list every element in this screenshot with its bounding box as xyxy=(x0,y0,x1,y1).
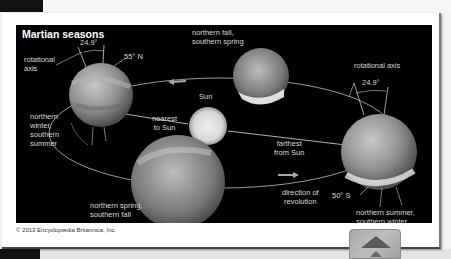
triangle-up-small-icon xyxy=(370,251,382,257)
copyright-text: © 2013 Encyclopædia Britannica, Inc. xyxy=(16,227,116,233)
label-northern-winter: northern winter, southern summer xyxy=(30,112,59,148)
figure-card: Martian seasons rotational axis 24.9° 55… xyxy=(2,13,441,249)
label-lat-south: 50° S xyxy=(332,191,350,200)
mars-left xyxy=(69,63,133,127)
label-sun: Sun xyxy=(199,92,212,101)
label-northern-spring: northern spring, southern fall xyxy=(90,201,143,219)
label-nearest: nearest to Sun xyxy=(152,114,177,132)
background-strip xyxy=(43,0,451,12)
direction-arrow-bottom xyxy=(278,172,299,178)
label-northern-fall: northern fall, southern spring xyxy=(192,28,244,46)
label-tilt-left: 24.9° xyxy=(80,38,98,47)
label-farthest: farthest from Sun xyxy=(274,139,304,157)
background-dark-corner-bottom xyxy=(0,249,40,259)
scroll-to-top-button[interactable] xyxy=(349,229,401,259)
label-northern-summer: northern summer, southern winter xyxy=(356,208,415,223)
label-lat-north: 55° N xyxy=(124,52,143,61)
diagram-panel: Martian seasons rotational axis 24.9° 55… xyxy=(16,25,432,223)
label-direction: direction of revolution xyxy=(282,188,319,206)
label-rotational-axis-left: rotational axis xyxy=(24,55,55,73)
triangle-up-icon xyxy=(361,236,391,248)
label-rotational-axis-right: rotational axis xyxy=(354,61,400,70)
background-dark-corner xyxy=(0,0,43,12)
label-tilt-right: 24.9° xyxy=(362,78,380,87)
orbit-diagram xyxy=(16,25,432,223)
